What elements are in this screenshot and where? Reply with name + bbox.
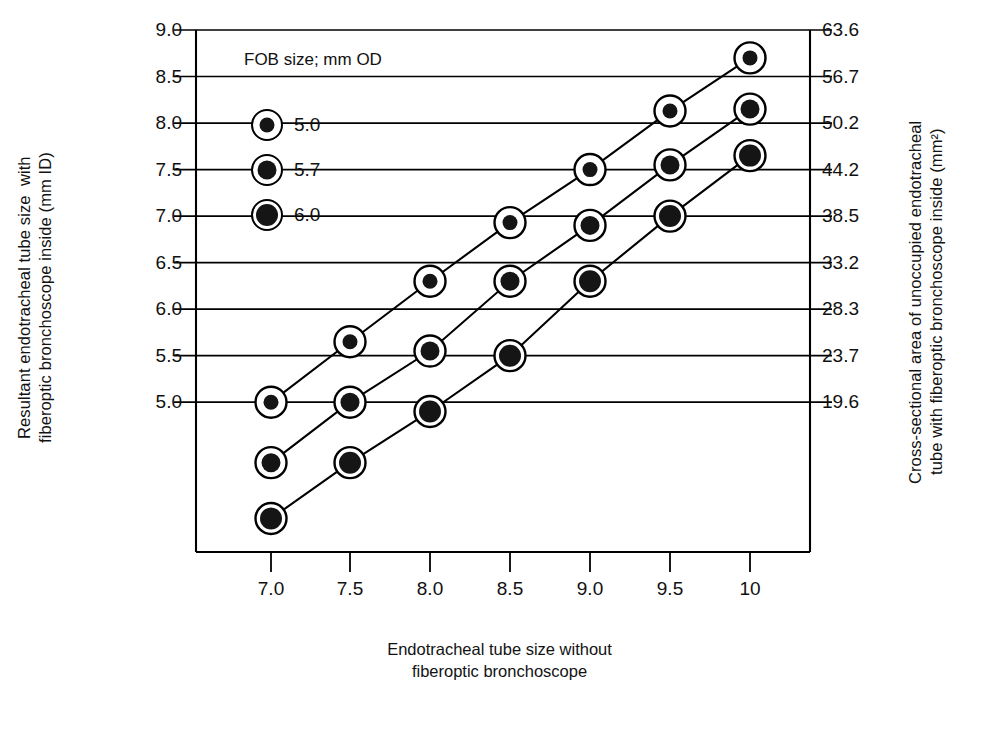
y-tick-right-50-2: 50.2 (822, 112, 892, 134)
y-tick-left-8-5: 8.5 (120, 66, 182, 88)
y-tick-right-44-2: 44.2 (822, 159, 892, 181)
y-tick-left-8-0: 8.0 (120, 112, 182, 134)
data-point-5-0-x9-5[interactable] (655, 95, 686, 126)
data-point-5-7-x8-5[interactable] (495, 266, 526, 297)
data-point-5-0-x10[interactable] (735, 42, 766, 73)
data-point-5-7-x8-0[interactable] (415, 336, 446, 367)
data-point-6-0-x8-5[interactable] (495, 340, 526, 371)
data-point-5-0-x8-5[interactable] (495, 207, 526, 238)
y-tick-right-23-7: 23.7 (822, 345, 892, 367)
y-axis-left-ticks: 9.08.58.07.57.06.56.05.55.0 (120, 0, 182, 733)
y-tick-left-5-5: 5.5 (120, 345, 182, 367)
legend-label-5-0: 5.0 (294, 114, 320, 136)
data-point-6-0-x7-5[interactable] (335, 447, 366, 478)
chart-figure: Resultant endotracheal tube size with fi… (0, 0, 999, 733)
y-tick-left-5-0: 5.0 (120, 391, 182, 413)
x-tick-9-5: 9.5 (640, 578, 700, 600)
y-tick-left-7-5: 7.5 (120, 159, 182, 181)
data-point-6-0-x8-0[interactable] (415, 396, 446, 427)
legend-label-6-0: 6.0 (294, 204, 320, 226)
data-point-5-7-x9-5[interactable] (655, 149, 686, 180)
y-tick-left-6-0: 6.0 (120, 298, 182, 320)
legend-marker-6-0 (250, 198, 284, 232)
data-point-5-0-x9-0[interactable] (575, 154, 606, 185)
x-tick-8-0: 8.0 (400, 578, 460, 600)
y-tick-right-28-3: 28.3 (822, 298, 892, 320)
y-tick-right-38-5: 38.5 (822, 205, 892, 227)
x-tick-10: 10 (720, 578, 780, 600)
y-tick-left-7-0: 7.0 (120, 205, 182, 227)
data-point-6-0-x9-0[interactable] (575, 266, 606, 297)
data-point-5-0-x8-0[interactable] (415, 266, 446, 297)
y-axis-left-title: Resultant endotracheal tube size with fi… (14, 48, 55, 548)
y-tick-left-9-0: 9.0 (120, 19, 182, 41)
x-tick-8-5: 8.5 (480, 578, 540, 600)
data-point-5-7-x7-0[interactable] (256, 447, 287, 478)
data-point-5-7-x9-0[interactable] (575, 210, 606, 241)
legend-marker-5-0 (250, 108, 284, 142)
y-tick-right-56-7: 56.7 (822, 66, 892, 88)
data-point-5-0-x7-0[interactable] (256, 387, 287, 418)
y-tick-right-19-6: 19.6 (822, 391, 892, 413)
y-tick-right-33-2: 33.2 (822, 252, 892, 274)
legend-item-6-0: 6.0 (250, 198, 320, 232)
y-axis-right-ticks: 63.656.750.244.238.533.228.323.719.6 (822, 0, 892, 733)
data-point-5-7-x10[interactable] (735, 94, 766, 125)
y-tick-left-6-5: 6.5 (120, 252, 182, 274)
x-tick-7-5: 7.5 (320, 578, 380, 600)
y-axis-right-title: Cross-sectional area of unoccupied endot… (905, 42, 946, 562)
x-tick-7-0: 7.0 (241, 578, 301, 600)
data-point-5-7-x7-5[interactable] (335, 387, 366, 418)
legend-item-5-0: 5.0 (250, 108, 320, 142)
data-point-6-0-x7-0[interactable] (256, 503, 287, 534)
x-tick-9-0: 9.0 (560, 578, 620, 600)
legend-marker-5-7 (250, 153, 284, 187)
y-tick-right-63-6: 63.6 (822, 19, 892, 41)
data-point-6-0-x9-5[interactable] (655, 201, 686, 232)
legend-item-5-7: 5.7 (250, 153, 320, 187)
legend-label-5-7: 5.7 (294, 159, 320, 181)
data-point-5-0-x7-5[interactable] (335, 326, 366, 357)
data-point-6-0-x10[interactable] (735, 140, 766, 171)
legend-title: FOB size; mm OD (244, 50, 382, 70)
